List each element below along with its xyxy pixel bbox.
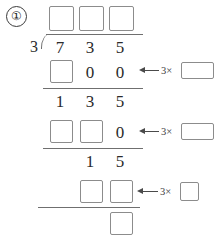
division-bracket-curve	[41, 34, 50, 49]
step3-product-box-ones[interactable]	[110, 180, 133, 203]
problem-number: ①	[6, 6, 27, 27]
step2-product-box-hundreds[interactable]	[50, 120, 73, 143]
step1-remainder-digit-hundreds: 1	[51, 93, 69, 110]
step2-arrow-line-icon	[145, 131, 159, 132]
step2-product-box-tens[interactable]	[80, 120, 103, 143]
step1-product-box-hundreds[interactable]	[50, 60, 73, 83]
step3-multiplier-box[interactable]	[180, 182, 199, 201]
step1-arrow-line-icon	[145, 70, 159, 71]
step2-remainder-digit-ones: 5	[111, 153, 129, 170]
step2-multiplier-label: 3×	[161, 126, 172, 137]
step2-subtraction-rule	[43, 148, 143, 149]
step1-product-digit-tens: 0	[81, 64, 99, 81]
quotient-box-hundreds[interactable]	[49, 6, 74, 31]
long-division-worksheet: ① 3 7 3 5 0 0 3× 1 3 5 0 3× 1 5 3×	[0, 0, 219, 236]
quotient-box-tens[interactable]	[79, 6, 104, 31]
step2-multiplier-box[interactable]	[181, 123, 214, 140]
step1-multiplier-label: 3×	[161, 65, 172, 76]
quotient-box-ones[interactable]	[109, 6, 134, 31]
final-remainder-box[interactable]	[110, 212, 133, 235]
step3-arrow-line-icon	[143, 191, 158, 192]
step1-remainder-digit-ones: 5	[111, 93, 129, 110]
step1-subtraction-rule	[43, 88, 143, 89]
dividend-digit-hundreds: 7	[51, 39, 69, 56]
step1-product-digit-ones: 0	[111, 64, 129, 81]
divisor: 3	[24, 39, 38, 55]
step2-product-digit-ones: 0	[111, 124, 129, 141]
step3-multiplier-label: 3×	[160, 186, 171, 197]
step2-remainder-digit-tens: 1	[81, 153, 99, 170]
step1-multiplier-box[interactable]	[181, 62, 214, 79]
dividend-digit-tens: 3	[81, 39, 99, 56]
step1-remainder-digit-tens: 3	[81, 93, 99, 110]
step3-product-box-tens[interactable]	[80, 180, 103, 203]
step3-subtraction-rule	[38, 207, 140, 208]
division-bracket-vinculum	[46, 34, 143, 35]
dividend-digit-ones: 5	[111, 39, 129, 56]
